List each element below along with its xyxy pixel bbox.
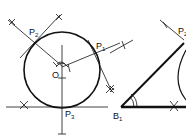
label-o: O [52,71,59,80]
label-b1: B1 [113,112,122,124]
label-p2-right: P2 [178,27,186,39]
geometry-diagram: P2 P1 O P3 B1 P2 [0,0,186,137]
label-p2: P2 [29,28,38,40]
label-p1: P1 [96,42,105,54]
diagram-lines [0,0,186,137]
label-p3: P3 [65,110,74,122]
